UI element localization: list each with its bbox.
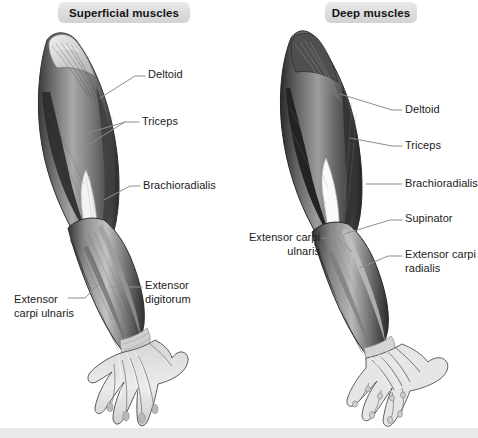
label-right-brachioradialis: Brachioradialis [405,177,478,191]
anatomy-figure: Superficial muscles Deep muscles Deltoid… [0,0,478,438]
label-left-brachioradialis: Brachioradialis [143,179,216,193]
label-left-extensor-digitorum: Extensor digitorum [145,279,191,306]
label-right-supinator: Supinator [405,212,453,226]
label-left-triceps: Triceps [142,115,178,129]
label-right-triceps: Triceps [405,139,441,153]
label-right-extensor-carpi-ulnaris: Extensor carpi ulnaris [236,231,320,258]
label-left-deltoid: Deltoid [148,68,183,82]
panel-header-deep: Deep muscles [325,2,417,23]
label-right-extensor-carpi-radialis: Extensor carpi radialis [405,248,476,275]
label-right-deltoid: Deltoid [405,103,440,117]
page-bottom-band [0,428,478,438]
right-arm-deep [280,31,447,427]
label-left-extensor-carpi-ulnaris: Extensor carpi ulnaris [14,293,74,320]
panel-header-superficial: Superficial muscles [58,2,190,23]
left-arm-superficial [38,33,188,426]
leader-left-deltoid [100,76,145,98]
